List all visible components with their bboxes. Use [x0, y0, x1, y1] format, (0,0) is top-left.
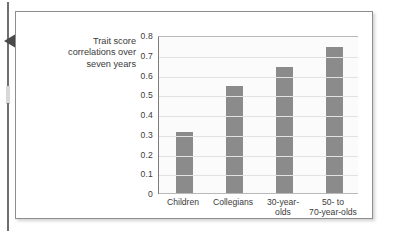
- bar-chart: 0.80.70.60.50.40.30.20.10: [131, 36, 358, 194]
- x-axis-category-label: 30-year-olds: [258, 197, 308, 217]
- y-axis-tick-label: 0.3: [131, 130, 153, 139]
- bar: [276, 67, 293, 193]
- bar: [326, 47, 343, 193]
- y-axis-tick-label: 0.6: [131, 71, 153, 80]
- y-axis-tick-label: 0.7: [131, 51, 153, 60]
- x-axis-category-line: Children: [158, 197, 208, 207]
- y-axis-tick-label: 0.5: [131, 91, 153, 100]
- gridline: [159, 57, 358, 58]
- gridline: [159, 77, 358, 78]
- gridline: [159, 175, 358, 176]
- caption-line-2: correlations over: [36, 47, 136, 58]
- y-axis-tick-label: 0.1: [131, 170, 153, 179]
- caption-line-1: Trait score: [36, 36, 136, 47]
- page-margin-rule-gap: [6, 86, 10, 104]
- y-axis-tick-label: 0.2: [131, 150, 153, 159]
- bar: [176, 132, 193, 193]
- bar-series: [159, 37, 358, 193]
- x-axis-category-line: 30-year-: [258, 197, 308, 207]
- chart-axis-caption: Trait score correlations over seven year…: [36, 36, 136, 70]
- x-axis-category-line: olds: [258, 207, 308, 217]
- plot-area: [158, 36, 358, 194]
- x-axis-category-line: 70-year-olds: [308, 207, 358, 217]
- x-axis-category-line: 50- to: [308, 197, 358, 207]
- y-axis-tick-label: 0.8: [131, 32, 153, 41]
- gridline: [159, 116, 358, 117]
- gridline: [159, 136, 358, 137]
- figure-container: Trait score correlations over seven year…: [15, 11, 373, 219]
- y-axis-tick-label: 0.4: [131, 111, 153, 120]
- page-margin-rule-bottom: [7, 103, 9, 231]
- bar: [226, 86, 243, 193]
- x-axis: ChildrenCollegians30-year-olds50- to70-y…: [158, 197, 358, 223]
- x-axis-baseline: [159, 193, 358, 194]
- x-axis-category-label: Collegians: [208, 197, 258, 207]
- caption-line-3: seven years: [36, 59, 136, 70]
- y-axis-tick-label: 0: [131, 190, 153, 199]
- x-axis-category-label: Children: [158, 197, 208, 207]
- x-axis-category-line: Collegians: [208, 197, 258, 207]
- x-axis-category-label: 50- to70-year-olds: [308, 197, 358, 217]
- gridline: [159, 156, 358, 157]
- gridline: [159, 96, 358, 97]
- y-axis: 0.80.70.60.50.40.30.20.10: [131, 36, 153, 194]
